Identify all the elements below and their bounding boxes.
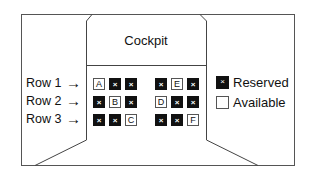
seat-available-c[interactable]: C: [125, 114, 137, 126]
seat-reserved: ×: [125, 96, 137, 108]
seat-available-a[interactable]: A: [93, 78, 105, 90]
seat-available-d[interactable]: D: [155, 96, 167, 108]
arrow-right-icon: →: [66, 74, 81, 91]
seat-available-b[interactable]: B: [109, 96, 121, 108]
seat-available-e[interactable]: E: [171, 78, 183, 90]
seat-reserved: ×: [187, 96, 199, 108]
seat-reserved: ×: [155, 78, 167, 90]
seat-reserved: ×: [171, 96, 183, 108]
seat-available-f[interactable]: F: [187, 114, 199, 126]
seat-reserved: ×: [109, 114, 121, 126]
airplane-outline: [0, 0, 310, 181]
seat-reserved: ×: [93, 114, 105, 126]
arrow-right-icon: →: [66, 92, 81, 109]
cockpit-label: Cockpit: [86, 33, 206, 48]
seat-reserved: ×: [93, 96, 105, 108]
legend-available-label: Available: [233, 95, 286, 110]
legend-reserved-label: Reserved: [233, 75, 289, 90]
seat-reserved: ×: [125, 78, 137, 90]
seat-reserved: ×: [171, 114, 183, 126]
seat-reserved: ×: [155, 114, 167, 126]
legend-reserved-swatch: ×: [216, 76, 229, 89]
arrow-right-icon: →: [66, 110, 81, 127]
seat-reserved: ×: [187, 78, 199, 90]
seat-reserved: ×: [109, 78, 121, 90]
legend-available-swatch: [216, 96, 229, 109]
